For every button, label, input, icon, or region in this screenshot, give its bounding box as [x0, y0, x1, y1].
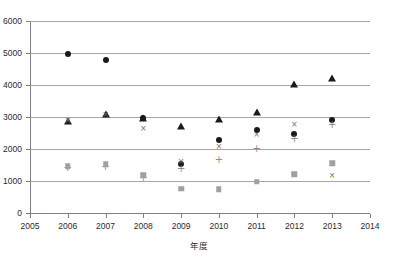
- x-tick-label: 2010: [209, 221, 228, 231]
- x-tick-mark: [294, 214, 295, 218]
- scatter-chart: 0100020003000400050006000 20052006200720…: [0, 0, 397, 259]
- x-tick-mark: [370, 214, 371, 218]
- x-tick-label: 2005: [21, 221, 40, 231]
- x-tick-mark: [106, 214, 107, 218]
- y-tick-mark: [26, 117, 30, 118]
- y-tick-label: 3000: [0, 112, 22, 122]
- y-tick-label: 0: [0, 208, 22, 218]
- x-axis-title: 年度: [0, 239, 397, 251]
- x-tick-label: 2012: [285, 221, 304, 231]
- gridline: [30, 85, 370, 86]
- gridline: [30, 181, 370, 182]
- y-tick-mark: [26, 21, 30, 22]
- y-tick-mark: [26, 85, 30, 86]
- x-tick-label: 2007: [96, 221, 115, 231]
- x-tick-mark: [30, 214, 31, 218]
- x-tick-label: 2006: [58, 221, 77, 231]
- x-tick-label: 2008: [134, 221, 153, 231]
- x-tick-mark: [143, 214, 144, 218]
- gridline: [30, 149, 370, 150]
- y-tick-mark: [26, 53, 30, 54]
- y-tick-label: 4000: [0, 80, 22, 90]
- gridline: [30, 21, 370, 22]
- x-tick-mark: [181, 214, 182, 218]
- y-tick-label: 2000: [0, 144, 22, 154]
- x-tick-mark: [68, 214, 69, 218]
- y-tick-label: 6000: [0, 16, 22, 26]
- y-tick-label: 1000: [0, 176, 22, 186]
- x-tick-label: 2014: [361, 221, 380, 231]
- x-tick-mark: [219, 214, 220, 218]
- y-tick-mark: [26, 181, 30, 182]
- x-tick-label: 2009: [172, 221, 191, 231]
- gridline: [30, 117, 370, 118]
- x-tick-mark: [257, 214, 258, 218]
- x-axis-line: [30, 213, 370, 214]
- x-tick-label: 2011: [248, 221, 266, 231]
- gridline: [30, 53, 370, 54]
- x-tick-mark: [332, 214, 333, 218]
- y-tick-mark: [26, 149, 30, 150]
- x-tick-label: 2013: [323, 221, 342, 231]
- y-tick-label: 5000: [0, 48, 22, 58]
